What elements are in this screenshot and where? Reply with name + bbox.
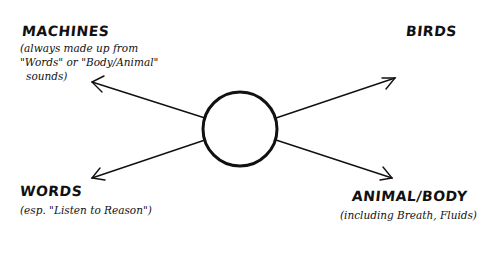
note-line: (always made up from <box>20 41 158 55</box>
edge-animal-body <box>276 140 392 178</box>
note-line: "Words" or "Body/Animal" <box>20 55 158 69</box>
node-title-words: WORDS <box>19 183 83 199</box>
edge-birds <box>276 78 395 118</box>
edge-machines <box>92 82 205 118</box>
diagram-canvas: MACHINES (always made up from "Words" or… <box>0 0 486 254</box>
node-note-machines: (always made up from "Words" or "Body/An… <box>20 41 158 83</box>
arrowhead-animal-body-icon <box>380 167 392 180</box>
note-line: sounds) <box>20 69 158 83</box>
node-note-animal-body: (including Breath, Fluids) <box>340 208 477 222</box>
node-title-birds: BIRDS <box>405 23 458 39</box>
edge-words <box>92 140 205 178</box>
node-title-animal-body: ANIMAL/BODY <box>351 188 468 204</box>
center-circle <box>203 92 277 166</box>
node-note-words: (esp. "Listen to Reason") <box>20 203 152 217</box>
node-title-machines: MACHINES <box>21 23 110 39</box>
